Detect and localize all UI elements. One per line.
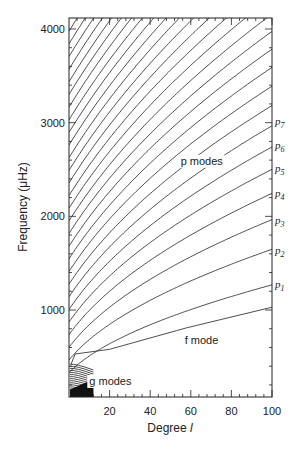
p-mode-curve: [69, 14, 272, 221]
p-mode-curve: [69, 0, 268, 208]
mode-curves: [69, 0, 272, 400]
f-mode-curve: [71, 307, 272, 364]
y-tick-label: 1000: [41, 304, 65, 316]
p-mode-curve: [69, 0, 81, 19]
p-mode-curve: [69, 0, 197, 158]
p-mode-label: p2: [274, 244, 285, 259]
x-tick-label: 20: [103, 405, 115, 417]
x-tick-label: 80: [225, 405, 237, 417]
y-tick-label: 4000: [41, 23, 65, 35]
annotation-p-modes: p modes: [181, 155, 224, 167]
p-mode-label: p3: [274, 214, 285, 229]
p-mode-curve: [69, 31, 272, 233]
x-axis-title: Degree l: [147, 421, 193, 435]
p-mode-curve: [69, 0, 126, 82]
p-mode-label: p5: [274, 162, 285, 177]
p-mode-curve: [69, 0, 146, 107]
annotations: p modesf modeg modes: [87, 155, 224, 388]
x-tick-label: 100: [263, 405, 281, 417]
p-mode-curve: [69, 249, 272, 360]
y-tick-label: 2000: [41, 210, 65, 222]
p-mode-curve: [69, 0, 183, 145]
annotation-g-modes: g modes: [89, 375, 132, 387]
p-mode-label: p6: [274, 139, 285, 154]
p-mode-labels: p1p2p3p4p5p6p7: [274, 115, 286, 293]
y-tick-label: 3000: [41, 117, 65, 129]
annotation-f-mode: f mode: [185, 334, 219, 346]
p-mode-curve: [69, 0, 136, 95]
x-tick-label: 40: [144, 405, 156, 417]
p-mode-curve: [69, 220, 272, 348]
p-mode-curve: [69, 0, 89, 31]
p-mode-curve: [69, 0, 213, 170]
p-mode-curve: [69, 0, 73, 6]
x-tick-label: 60: [185, 405, 197, 417]
p-mode-curve: [69, 0, 97, 44]
y-axis-title: Frequency (μHz): [16, 162, 30, 252]
p-mode-label: p4: [274, 187, 285, 202]
p-mode-curve: [69, 193, 272, 334]
p-mode-curve: [69, 169, 272, 322]
frequency-degree-chart: 204060801001000200030004000 Degree l Fre…: [0, 0, 299, 449]
g-mode-curve: [70, 364, 93, 370]
p-mode-label: p1: [274, 278, 285, 293]
p-mode-label: p7: [274, 115, 286, 130]
p-mode-curve: [69, 285, 272, 373]
